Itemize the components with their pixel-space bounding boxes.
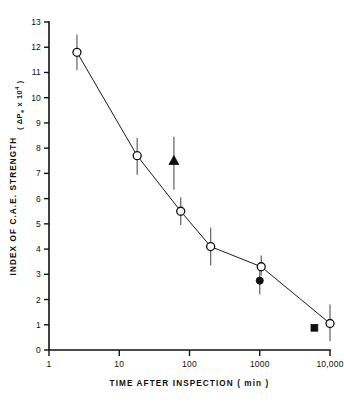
y-axis-title: INDEX OF C.A.E. STRENGTH( ΔPe x 104 ) — [9, 80, 25, 275]
y-tick-label: 3 — [36, 269, 41, 279]
y-axis-ticks: 012345678910111213 — [31, 17, 49, 355]
y-tick-label: 12 — [31, 42, 41, 52]
y-axis-title-text: INDEX OF C.A.E. STRENGTH — [9, 137, 18, 276]
error-bars — [77, 35, 330, 342]
x-axis-title: TIME AFTER INSPECTION ( min ) — [110, 379, 270, 388]
plot-area: 012345678910111213 110100100010,000 INDE… — [9, 17, 344, 388]
chart-figure: 012345678910111213 110100100010,000 INDE… — [0, 0, 344, 403]
x-axis-ticks: 110100100010,000 — [47, 350, 344, 369]
x-tick-label: 10 — [114, 359, 124, 369]
y-tick-label: 1 — [36, 320, 41, 330]
marker-filled-square — [311, 324, 318, 331]
y-tick-label: 5 — [36, 219, 41, 229]
x-tick-label: 10,000 — [316, 359, 343, 369]
marker-open-circle — [133, 152, 141, 160]
series-line — [77, 52, 330, 323]
x-tick-label: 100 — [182, 359, 197, 369]
marker-filled-circle — [256, 277, 263, 284]
y-tick-label: 10 — [31, 93, 41, 103]
marker-filled-triangle — [169, 156, 179, 165]
marker-open-circle — [177, 207, 185, 215]
chart-canvas: 012345678910111213 110100100010,000 INDE… — [0, 0, 344, 403]
x-tick-label: 1 — [47, 359, 52, 369]
series-connecting-line — [77, 52, 330, 323]
y-axis-units-text: ( ΔPe x 104 ) — [14, 80, 25, 130]
data-markers — [73, 48, 334, 331]
y-tick-label: 8 — [36, 143, 41, 153]
axes — [49, 22, 330, 350]
marker-open-circle — [73, 48, 81, 56]
y-tick-label: 7 — [36, 168, 41, 178]
x-axis-title-text: TIME AFTER INSPECTION ( min ) — [110, 379, 270, 388]
y-tick-label: 4 — [36, 244, 41, 254]
axis-lines — [49, 22, 330, 350]
y-tick-label: 2 — [36, 295, 41, 305]
x-tick-label: 1000 — [250, 359, 270, 369]
marker-open-circle — [326, 320, 334, 328]
y-tick-label: 6 — [36, 194, 41, 204]
y-tick-label: 11 — [32, 67, 41, 77]
y-tick-label: 9 — [36, 118, 41, 128]
marker-open-circle — [257, 263, 265, 271]
y-tick-label: 13 — [31, 17, 41, 27]
marker-open-circle — [207, 243, 215, 251]
y-tick-label: 0 — [36, 345, 41, 355]
